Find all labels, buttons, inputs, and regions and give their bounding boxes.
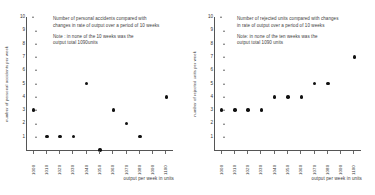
y-axis-label: number of personal accidents per week <box>2 20 11 148</box>
data-point <box>45 135 48 138</box>
y-tick-label: 3 <box>22 108 25 113</box>
x-tick-label: 1080 <box>325 165 330 175</box>
y-tick-label: 6 <box>210 68 213 73</box>
plot-area: Number of rejected units compared with c… <box>214 17 361 151</box>
x-tick-label: 1000 <box>31 165 36 175</box>
x-tick-mark <box>112 151 113 154</box>
x-tick-label: 1070 <box>312 165 317 175</box>
caption-note-line2: output total 1090 units <box>237 40 373 47</box>
data-point <box>165 95 168 98</box>
plot-area: Number of personal accidents compared wi… <box>26 17 173 151</box>
x-tick-mark <box>86 151 87 154</box>
caption-title-line2: changes in rate of output over a period … <box>53 23 185 30</box>
y-tick-label: 9 <box>210 28 213 33</box>
x-tick-mark <box>221 151 222 154</box>
caption-title-line1: Number of rejected units compared with c… <box>237 16 373 23</box>
x-tick-label: 1010 <box>44 165 49 175</box>
x-tick-label: 1050 <box>285 165 290 175</box>
y-tick-label: 8 <box>210 41 213 46</box>
data-point <box>273 95 276 98</box>
y-tick-label: 4 <box>210 95 213 100</box>
data-point <box>72 135 75 138</box>
caption-note-line1: Note: in none of the ten weeks was the <box>237 34 373 41</box>
x-tick-label: 1060 <box>298 165 303 175</box>
y-tick-label: 10 <box>20 15 25 20</box>
x-tick-label: 1030 <box>71 165 76 175</box>
x-tick-mark <box>300 151 301 154</box>
x-tick-label: 1100 <box>163 165 168 175</box>
chart-personal-accidents: number of personal accidents per week 12… <box>0 0 187 195</box>
x-tick-mark <box>353 151 354 154</box>
x-tick-label: 1020 <box>57 165 62 175</box>
y-axis-ticks: 12345678910 <box>201 17 213 151</box>
data-point <box>260 108 263 111</box>
data-point <box>300 95 303 98</box>
caption-note-line1: Note : in none of the 10 weeks was the <box>53 34 185 41</box>
y-tick-label: 10 <box>208 15 213 20</box>
x-tick-mark <box>314 151 315 154</box>
x-tick-mark <box>274 151 275 154</box>
x-axis-label: output per week in units <box>188 176 362 181</box>
y-tick-label: 2 <box>22 121 25 126</box>
data-point <box>220 108 223 111</box>
data-point <box>138 135 141 138</box>
x-tick-label: 1020 <box>245 165 250 175</box>
x-tick-label: 1050 <box>97 165 102 175</box>
chart-caption: Number of personal accidents compared wi… <box>53 16 185 47</box>
x-tick-mark <box>99 151 100 154</box>
caption-note-line2: output total 1090units <box>53 40 185 47</box>
data-point <box>286 95 289 98</box>
data-point <box>58 135 61 138</box>
x-tick-mark <box>234 151 235 154</box>
y-tick-label: 5 <box>22 81 25 86</box>
x-tick-mark <box>340 151 341 154</box>
x-tick-label: 1100 <box>351 165 356 175</box>
y-tick-label: 7 <box>210 55 213 60</box>
data-point <box>85 82 88 85</box>
x-tick-mark <box>327 151 328 154</box>
data-point <box>125 122 128 125</box>
y-tick-label: 1 <box>22 134 25 139</box>
x-tick-label: 1000 <box>219 165 224 175</box>
y-tick-label: 1 <box>210 134 213 139</box>
x-tick-label: 1090 <box>150 165 155 175</box>
data-point <box>112 108 115 111</box>
data-point <box>32 108 35 111</box>
x-tick-label: 1070 <box>124 165 129 175</box>
x-tick-label: 1060 <box>110 165 115 175</box>
x-tick-mark <box>46 151 47 154</box>
x-tick-label: 1040 <box>272 165 277 175</box>
x-tick-mark <box>260 151 261 154</box>
x-tick-mark <box>126 151 127 154</box>
x-tick-label: 1030 <box>259 165 264 175</box>
x-axis-label: output per week in units <box>0 176 174 181</box>
y-tick-label: 9 <box>22 28 25 33</box>
x-tick-mark <box>152 151 153 154</box>
x-tick-mark <box>165 151 166 154</box>
x-tick-mark <box>33 151 34 154</box>
y-tick-label: 6 <box>22 68 25 73</box>
y-tick-label: 3 <box>210 108 213 113</box>
chart-caption: Number of rejected units compared with c… <box>237 16 373 47</box>
x-tick-label: 1090 <box>338 165 343 175</box>
x-tick-mark <box>139 151 140 154</box>
x-tick-mark <box>287 151 288 154</box>
data-point <box>246 108 249 111</box>
x-tick-label: 1080 <box>137 165 142 175</box>
data-point <box>326 82 329 85</box>
data-point <box>353 55 356 58</box>
y-tick-label: 8 <box>22 41 25 46</box>
x-tick-mark <box>247 151 248 154</box>
data-point <box>313 82 316 85</box>
figure-sheet: number of personal accidents per week 12… <box>0 0 375 195</box>
x-tick-label: 1010 <box>232 165 237 175</box>
y-axis-label: number of rejected units per week <box>190 20 199 148</box>
y-tick-label: 5 <box>210 81 213 86</box>
caption-title-line2: in rate of output over a period of 10 we… <box>237 23 373 30</box>
caption-title-line1: Number of personal accidents compared wi… <box>53 16 185 23</box>
y-tick-label: 2 <box>210 121 213 126</box>
x-tick-label: 1040 <box>84 165 89 175</box>
x-tick-mark <box>59 151 60 154</box>
y-axis-ticks: 12345678910 <box>13 17 25 151</box>
data-point <box>233 108 236 111</box>
